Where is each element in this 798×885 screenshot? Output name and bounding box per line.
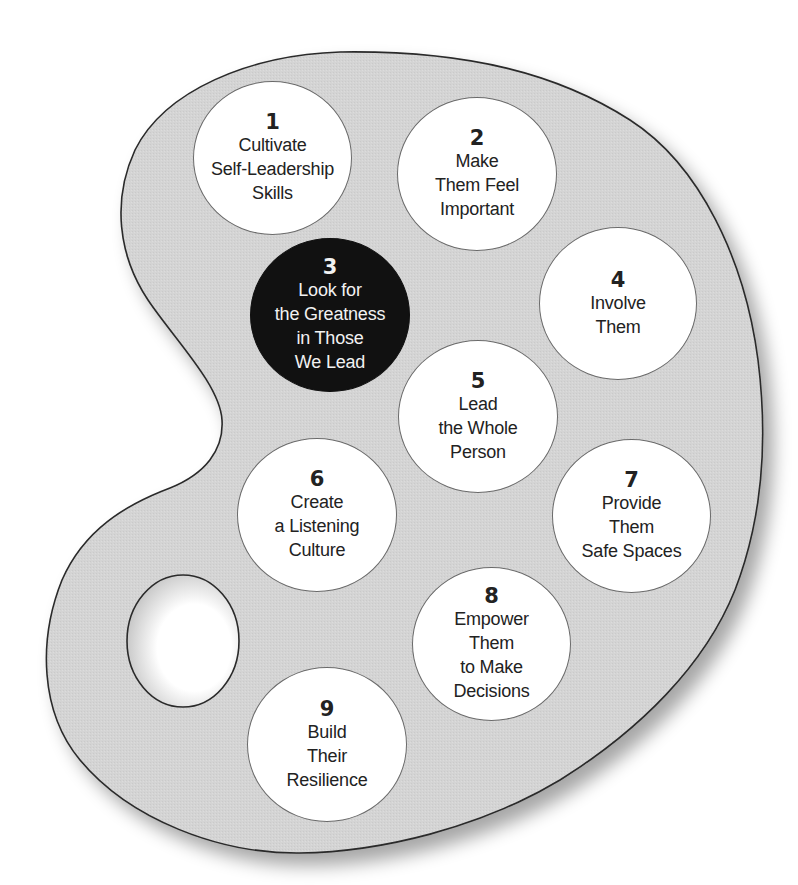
item-number: 5 bbox=[471, 370, 486, 392]
item-text-line: Decisions bbox=[453, 679, 529, 703]
paint-item-4: 4 Involve Them bbox=[539, 227, 697, 380]
item-text-line: Them bbox=[609, 515, 654, 539]
item-text-line: Safe Spaces bbox=[582, 539, 682, 563]
item-text-line: Make bbox=[455, 149, 498, 173]
item-text-line: Create bbox=[291, 490, 344, 514]
item-number: 6 bbox=[310, 468, 325, 490]
paint-item-6: 6 Create a Listening Culture bbox=[237, 438, 397, 592]
item-text-line: a Listening bbox=[275, 514, 360, 538]
item-text-line: in Those bbox=[296, 326, 363, 350]
paint-item-7: 7 Provide Them Safe Spaces bbox=[552, 439, 711, 593]
paint-item-1: 1 Cultivate Self-Leadership Skills bbox=[193, 81, 352, 235]
paint-item-2: 2 Make Them Feel Important bbox=[397, 97, 557, 251]
item-text-line: to Make bbox=[460, 655, 523, 679]
item-text-line: Important bbox=[440, 197, 514, 221]
item-text-line: Lead bbox=[458, 392, 497, 416]
item-number: 7 bbox=[624, 469, 639, 491]
palette-diagram: 1 Cultivate Self-Leadership Skills 2 Mak… bbox=[0, 0, 798, 885]
thumb-hole bbox=[127, 575, 239, 707]
item-text-line: Build bbox=[307, 720, 346, 744]
item-text-line: Them Feel bbox=[435, 173, 519, 197]
item-number: 9 bbox=[320, 698, 335, 720]
item-text-line: Their bbox=[307, 744, 347, 768]
paint-item-5: 5 Lead the Whole Person bbox=[398, 340, 558, 493]
item-text-line: Skills bbox=[252, 181, 293, 205]
paint-item-9: 9 Build Their Resilience bbox=[247, 667, 407, 822]
item-text-line: Resilience bbox=[286, 768, 367, 792]
item-number: 3 bbox=[323, 256, 338, 278]
paint-item-3-highlighted: 3 Look for the Greatness in Those We Lea… bbox=[250, 238, 410, 392]
paint-item-8: 8 Empower Them to Make Decisions bbox=[412, 567, 571, 721]
item-number: 2 bbox=[470, 127, 485, 149]
item-text-line: Look for bbox=[298, 278, 361, 302]
item-text-line: Self-Leadership bbox=[211, 157, 334, 181]
item-text-line: We Lead bbox=[295, 350, 365, 374]
item-text-line: the Whole bbox=[438, 416, 517, 440]
item-number: 8 bbox=[484, 585, 499, 607]
item-text-line: the Greatness bbox=[275, 302, 385, 326]
item-text-line: Person bbox=[450, 440, 506, 464]
item-text-line: Cultivate bbox=[238, 133, 306, 157]
item-number: 4 bbox=[611, 269, 626, 291]
item-text-line: Empower bbox=[454, 607, 529, 631]
item-number: 1 bbox=[265, 111, 280, 133]
item-text-line: Involve bbox=[590, 291, 646, 315]
item-text-line: Culture bbox=[289, 538, 346, 562]
item-text-line: Them bbox=[595, 315, 640, 339]
item-text-line: Provide bbox=[602, 491, 662, 515]
item-text-line: Them bbox=[469, 631, 514, 655]
